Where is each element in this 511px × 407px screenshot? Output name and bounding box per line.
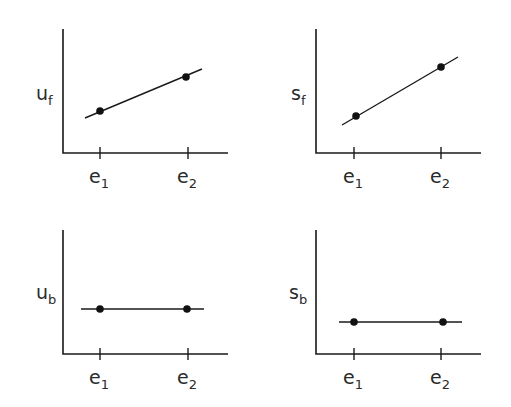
panel-sf: sf e1 e2 (291, 29, 481, 191)
data-point-e2 (183, 305, 191, 313)
x-tick-label-e2: e2 (177, 165, 197, 191)
data-point-e2 (437, 63, 445, 71)
axes (316, 230, 481, 354)
four-panel-diagram: uf e1 e2 sf e1 e2 ub e1 e2 sb e1 e2 (0, 0, 511, 407)
y-axis-label: sf (291, 82, 306, 108)
data-point-e1 (350, 318, 358, 326)
data-point-e2 (182, 73, 190, 81)
x-tick-label-e1: e1 (89, 366, 109, 392)
x-tick-label-e2: e2 (177, 366, 197, 392)
x-tick-label-e1: e1 (343, 165, 363, 191)
y-axis-label: ub (36, 281, 56, 307)
data-point-e2 (439, 318, 447, 326)
axes (63, 29, 228, 153)
panel-uf: uf e1 e2 (36, 29, 228, 191)
data-point-e1 (352, 112, 360, 120)
data-point-e1 (96, 305, 104, 313)
panel-ub: ub e1 e2 (36, 230, 228, 392)
x-tick-label-e1: e1 (343, 366, 363, 392)
x-tick-label-e1: e1 (89, 165, 109, 191)
panel-sb: sb e1 e2 (289, 230, 481, 392)
y-axis-label: uf (36, 82, 53, 108)
data-point-e1 (96, 107, 104, 115)
axes (63, 230, 228, 354)
x-tick-label-e2: e2 (430, 366, 450, 392)
x-tick-label-e2: e2 (430, 165, 450, 191)
y-axis-label: sb (289, 281, 307, 307)
axes (316, 29, 481, 153)
